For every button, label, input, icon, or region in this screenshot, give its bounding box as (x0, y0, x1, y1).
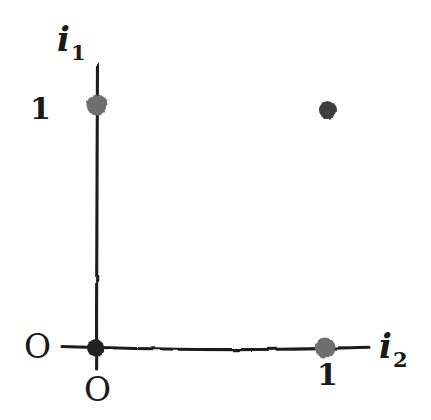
tick-label-horizontal-one: 1 (317, 360, 338, 390)
figure-canvas: i1 i2 1 1 O O (0, 0, 431, 420)
point-origin (87, 339, 105, 357)
axis-label-i1-subscript: 1 (71, 40, 86, 65)
origin-label-left: O (24, 330, 51, 363)
axis-label-i2-subscript: 2 (393, 347, 408, 372)
axis-label-i1-base: i (57, 19, 70, 59)
point-free-upper-right (319, 101, 337, 119)
axes-sketch (0, 0, 431, 420)
point-unit-vertical (87, 95, 108, 116)
point-unit-horizontal (315, 338, 336, 359)
axis-label-i2-base: i (379, 326, 392, 366)
tick-label-vertical-one: 1 (30, 94, 51, 124)
origin-label-below: O (84, 373, 111, 406)
axis-label-i2: i2 (379, 329, 407, 363)
axis-label-i1: i1 (57, 22, 85, 56)
